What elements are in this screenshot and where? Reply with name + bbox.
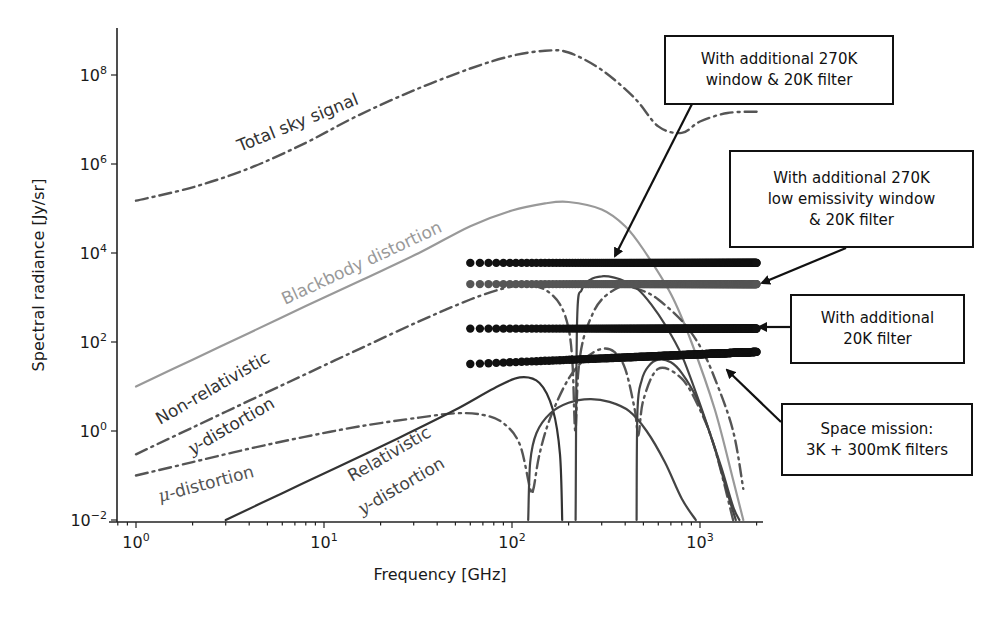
x-tick-label: 101: [310, 531, 337, 552]
y-tick-label: 100: [80, 420, 107, 441]
x-tick-label: 102: [498, 531, 525, 552]
y-tick-label: 108: [80, 64, 107, 85]
sensitivity-row: [466, 280, 761, 288]
curve-relativistic-y-distortion-lobe-2: [528, 399, 696, 520]
curve-label: Blackbody distortion: [278, 217, 445, 309]
sensitivity-row: [466, 324, 761, 332]
annotation-line: 3K + 300mK filters: [783, 440, 971, 461]
x-tick-label: 100: [122, 531, 149, 552]
annotation-line: low emissivity window: [731, 189, 972, 210]
x-tick-label: 103: [686, 531, 713, 552]
annotation-line: & 20K filter: [731, 210, 972, 231]
x-axis-label: Frequency [GHz]: [373, 565, 506, 584]
annotation-line: Space mission:: [783, 419, 971, 440]
curve-labels: Total sky signalBlackbody distortionNon-…: [152, 89, 448, 519]
annotation-line: 20K filter: [792, 329, 963, 350]
annotation-line: With additional: [792, 308, 963, 329]
y-tick-label: 104: [80, 242, 107, 263]
annotation-box: With additional 270Klow emissivity windo…: [729, 150, 974, 248]
annotation-arrow: [762, 248, 846, 283]
annotation-box: With additional20K filter: [790, 294, 965, 364]
annotation-box: With additional 270Kwindow & 20K filter: [664, 35, 894, 105]
annotation-line: With additional 270K: [731, 168, 972, 189]
annotation-box: Space mission:3K + 300mK filters: [781, 403, 973, 476]
sensitivity-row: [466, 259, 761, 267]
y-axis-label: Spectral radiance [Jy/sr]: [29, 179, 48, 372]
y-tick-label: 106: [80, 153, 107, 174]
annotation-line: window & 20K filter: [666, 70, 892, 91]
y-tick-label: 10−2: [70, 509, 107, 530]
annotation-arrow: [727, 370, 781, 422]
annotation-arrow: [615, 104, 692, 256]
y-tick-label: 102: [80, 331, 107, 352]
annotation-line: With additional 270K: [666, 49, 892, 70]
